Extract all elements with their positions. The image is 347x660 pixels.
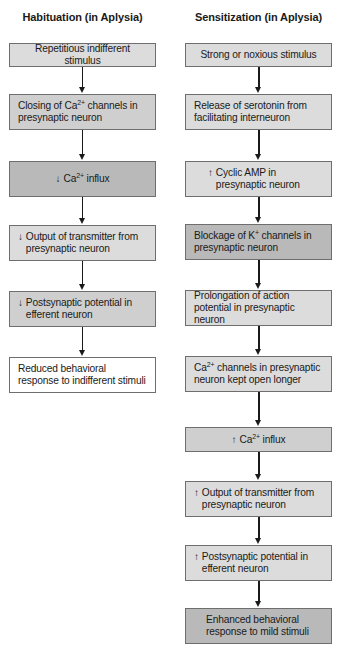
flow-arrow-down	[258, 130, 260, 155]
step-text: Enhanced behavioral response to mild sti…	[206, 614, 323, 638]
flow-arrow-down	[258, 517, 260, 539]
flow-arrow-down	[258, 67, 260, 88]
step-text: Ca2+ channels in presynaptic neuron kept…	[194, 362, 323, 386]
increase-arrow-icon: ↑	[194, 551, 199, 563]
habituation-step-4: ↓ Output of transmitter from presynaptic…	[9, 225, 156, 261]
flow-arrow-down	[258, 581, 260, 602]
sensitization-step-2: Release of serotonin from facilitating i…	[185, 94, 332, 130]
flow-arrow-down	[82, 130, 84, 155]
increase-arrow-icon: ↑	[208, 167, 213, 179]
habituation-step-1: Repetitious indifferent stimulus	[9, 43, 156, 67]
flow-arrow-down	[258, 452, 260, 475]
decrease-arrow-icon: ↓	[18, 231, 23, 243]
flow-arrow-down	[82, 197, 84, 219]
sensitization-step-1: Strong or noxious stimulus	[185, 43, 332, 67]
flow-arrow-down	[258, 326, 260, 350]
step-text: Ca2+ influx	[239, 434, 285, 446]
flow-arrow-down	[258, 197, 260, 218]
step-text: Strong or noxious stimulus	[200, 49, 316, 61]
flow-arrow-down	[258, 260, 260, 284]
sensitization-step-8: ↑ Output of transmitter from presynaptic…	[185, 481, 332, 517]
habituation-step-6: Reduced behavioral response to indiffere…	[9, 357, 156, 393]
habituation-step-3: ↓ Ca2+ influx	[9, 161, 156, 197]
step-text: Release of serotonin from facilitating i…	[194, 100, 323, 124]
step-text: Blockage of K+ channels in presynaptic n…	[194, 230, 323, 254]
sensitization-step-5: Prolongation of action potential in pres…	[185, 290, 332, 326]
step-text: Reduced behavioral response to indiffere…	[18, 363, 147, 387]
step-text: Repetitious indifferent stimulus	[18, 43, 147, 67]
habituation-step-2: Closing of Ca2+ channels in presynaptic …	[9, 94, 156, 130]
increase-arrow-icon: ↑	[232, 434, 237, 446]
flow-arrow-down	[82, 67, 84, 88]
flow-arrow-down	[258, 392, 260, 421]
step-text: Postsynaptic potential in efferent neuro…	[26, 297, 147, 321]
habituation-step-5: ↓ Postsynaptic potential in efferent neu…	[9, 291, 156, 327]
step-text: Output of transmitter from presynaptic n…	[202, 487, 323, 511]
increase-arrow-icon: ↑	[194, 487, 199, 499]
sensitization-step-6: Ca2+ channels in presynaptic neuron kept…	[185, 356, 332, 392]
flow-arrow-down	[82, 327, 84, 351]
step-text: Prolongation of action potential in pres…	[194, 290, 323, 326]
sensitization-step-7: ↑ Ca2+ influx	[185, 427, 332, 452]
habituation-title: Habituation (in Aplysia)	[9, 11, 156, 23]
step-text: Postsynaptic potential in efferent neuro…	[202, 551, 323, 575]
sensitization-step-9: ↑ Postsynaptic potential in efferent neu…	[185, 545, 332, 581]
step-text: Closing of Ca2+ channels in presynaptic …	[18, 100, 147, 124]
decrease-arrow-icon: ↓	[18, 297, 23, 309]
step-text: Output of transmitter from presynaptic n…	[26, 231, 147, 255]
sensitization-step-4: Blockage of K+ channels in presynaptic n…	[185, 224, 332, 260]
flow-arrow-down	[82, 261, 84, 285]
step-text: Ca2+ influx	[63, 173, 109, 185]
sensitization-step-10: Enhanced behavioral response to mild sti…	[185, 608, 332, 644]
sensitization-step-3: ↑ Cyclic AMP in presynaptic neuron	[185, 161, 332, 197]
decrease-arrow-icon: ↓	[56, 173, 61, 185]
step-text: Cyclic AMP in presynaptic neuron	[216, 167, 323, 191]
sensitization-title: Sensitization (in Aplysia)	[185, 11, 332, 23]
